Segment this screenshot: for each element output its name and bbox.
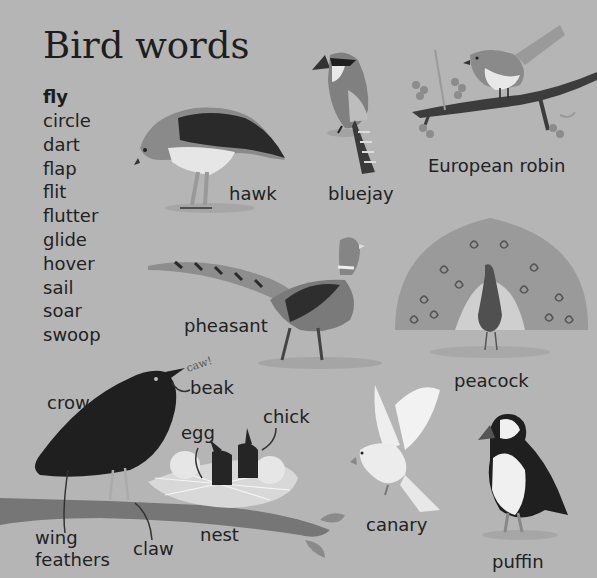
label-bluejay: bluejay <box>328 184 394 204</box>
word-item: flap <box>43 157 101 181</box>
canary-illustration <box>350 385 440 512</box>
word-item: flit <box>43 180 101 204</box>
label-egg: egg <box>181 423 215 443</box>
robin-illustration <box>412 25 597 138</box>
word-item: swoop <box>43 323 101 347</box>
label-crow: crow <box>47 393 90 413</box>
label-peacock: peacock <box>454 371 529 391</box>
word-item: glide <box>43 228 101 252</box>
label-chick: chick <box>263 407 310 427</box>
label-canary: canary <box>366 515 427 535</box>
word-item: soar <box>43 299 101 323</box>
label-european-robin: European robin <box>428 156 565 176</box>
label-claw: claw <box>133 539 174 559</box>
pheasant-illustration <box>148 237 382 369</box>
bird-words-page: Bird words fly circle dart flap flit flu… <box>0 0 597 578</box>
label-wing: wing <box>35 528 78 548</box>
word-list-heading: fly <box>43 84 101 109</box>
label-pheasant: pheasant <box>184 316 268 336</box>
word-item: circle <box>43 109 101 133</box>
label-nest: nest <box>200 525 239 545</box>
puffin-illustration <box>478 414 568 540</box>
page-title: Bird words <box>43 24 249 67</box>
fly-word-list: fly circle dart flap flit flutter glide … <box>43 84 101 347</box>
label-puffin: puffin <box>492 552 544 572</box>
label-feathers: feathers <box>35 550 110 570</box>
label-beak: beak <box>190 378 234 398</box>
word-item: hover <box>43 252 101 276</box>
peacock-illustration <box>395 218 588 358</box>
word-item: dart <box>43 133 101 157</box>
word-item: flutter <box>43 204 101 228</box>
label-hawk: hawk <box>229 184 277 204</box>
bluejay-illustration <box>312 52 376 174</box>
word-item: sail <box>43 276 101 300</box>
